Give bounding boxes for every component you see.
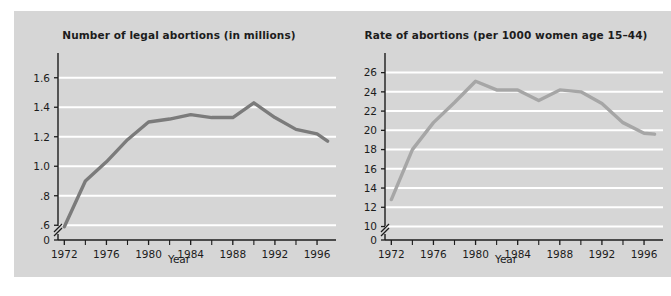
- y-tick-label-8: 10: [364, 220, 377, 232]
- y-tick-label-3: 20: [364, 124, 377, 136]
- plot-area-left: 1.61.41.21.0.8.6019721976198019841988199…: [14, 11, 344, 277]
- figure-root: Number of legal abortions (in millions) …: [0, 0, 671, 296]
- figure-panel: Number of legal abortions (in millions) …: [14, 11, 671, 277]
- x-axis-title-left: Year: [14, 253, 344, 265]
- y-tick-label-5: .6: [40, 219, 50, 231]
- y-tick-label-1: 24: [364, 86, 378, 98]
- y-tick-label-9: 0: [370, 234, 377, 246]
- y-tick-label-6: 0: [43, 234, 50, 246]
- x-axis-title-right: Year: [341, 253, 671, 265]
- y-tick-label-6: 14: [364, 182, 378, 194]
- data-series-line: [64, 103, 327, 227]
- y-tick-label-3: 1.0: [33, 160, 50, 172]
- data-series-line: [391, 81, 654, 199]
- y-tick-label-4: 18: [364, 143, 377, 155]
- y-tick-label-7: 12: [364, 201, 377, 213]
- y-tick-label-5: 16: [364, 163, 378, 175]
- y-tick-label-2: 22: [364, 105, 377, 117]
- y-tick-label-0: 26: [364, 66, 378, 78]
- y-tick-label-4: .8: [40, 190, 50, 202]
- plot-area-right: 2624222018161412100197219761980198419881…: [341, 11, 671, 277]
- y-tick-label-0: 1.6: [33, 72, 50, 84]
- y-tick-label-1: 1.4: [33, 101, 50, 113]
- chart-number-of-legal-abortions: Number of legal abortions (in millions) …: [14, 11, 344, 277]
- chart-rate-of-abortions: Rate of abortions (per 1000 women age 15…: [341, 11, 671, 277]
- y-tick-label-2: 1.2: [33, 131, 50, 143]
